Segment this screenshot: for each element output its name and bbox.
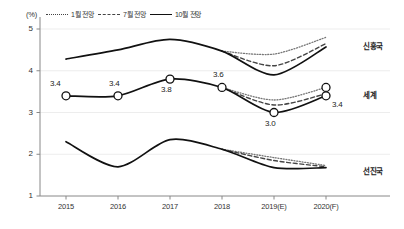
data-point-marker xyxy=(166,75,174,83)
data-point-value-label: 3.8 xyxy=(161,85,172,94)
data-point-value-label: 3.4 xyxy=(109,79,120,88)
x-axis-tick-label: 2020(F) xyxy=(300,202,352,211)
data-point-value-label: 3.0 xyxy=(265,119,276,128)
data-point-value-label: 3.4 xyxy=(50,79,61,88)
series-line-emerging-solid xyxy=(66,39,326,74)
y-axis-tick-label: 5 xyxy=(21,24,33,33)
series-line-advanced-dotted xyxy=(222,149,326,165)
x-axis-tick-label: 2017 xyxy=(144,202,196,211)
y-axis-tick-label: 3 xyxy=(21,108,33,117)
x-axis-tick-label: 2016 xyxy=(92,202,144,211)
series-line-world-solid xyxy=(66,79,326,113)
x-axis-tick-label: 2018 xyxy=(196,202,248,211)
data-point-value-label: 3.6 xyxy=(213,70,224,79)
data-point-marker xyxy=(322,83,330,91)
data-point-value-label: 3.4 xyxy=(332,100,343,109)
y-axis-tick-label: 4 xyxy=(21,66,33,75)
y-axis-tick-label: 1 xyxy=(21,191,33,200)
series-label-emerging: 신흥국 xyxy=(363,40,383,51)
data-point-marker xyxy=(322,92,330,100)
chart-plot-area xyxy=(0,0,404,229)
series-label-advanced: 선진국 xyxy=(363,165,383,176)
data-point-marker xyxy=(218,83,226,91)
data-point-marker xyxy=(114,92,122,100)
x-axis-tick-label: 2015 xyxy=(40,202,92,211)
y-axis-tick-label: 2 xyxy=(21,149,33,158)
growth-outlook-chart: (%) 1월 전망7월 전망10월 전망 12345 2015201620172… xyxy=(0,0,404,229)
x-axis-tick-label: 2019(E) xyxy=(248,202,300,211)
data-point-marker xyxy=(270,109,278,117)
data-point-marker xyxy=(62,92,70,100)
series-label-world: 세계 xyxy=(363,89,376,100)
